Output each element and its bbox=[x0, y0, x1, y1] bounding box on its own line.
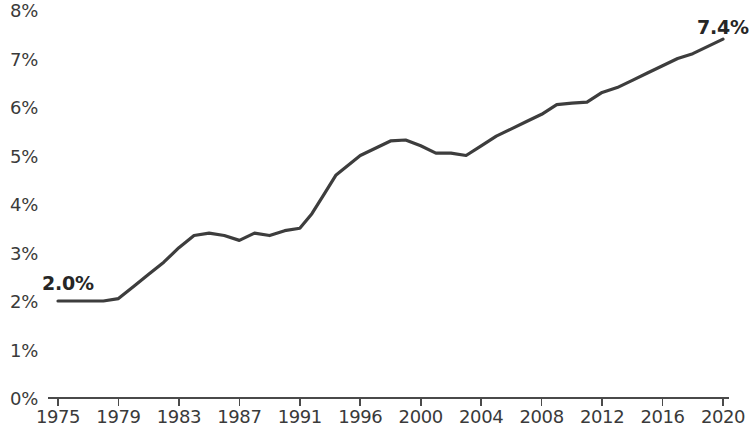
data-series-line bbox=[58, 39, 723, 301]
chart-plot bbox=[0, 0, 752, 434]
start-value-annotation: 2.0% bbox=[42, 272, 94, 294]
line-chart: 8%7%6%5%4%3%2%1%0% 197519791983198719911… bbox=[0, 0, 752, 434]
end-value-annotation: 7.4% bbox=[697, 16, 749, 38]
